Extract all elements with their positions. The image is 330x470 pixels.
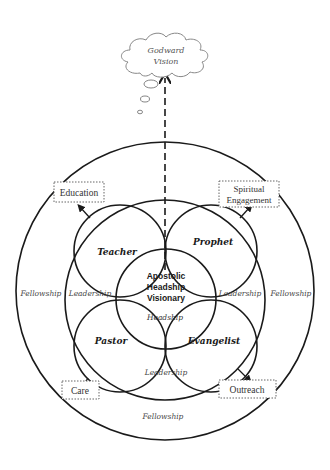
thought-bubble-medium bbox=[141, 96, 150, 102]
spiritual-arrow bbox=[240, 207, 250, 218]
fellowship-label-left: Fellowship bbox=[20, 289, 62, 298]
evangelist-label: Evangelist bbox=[187, 336, 241, 346]
education-arrow bbox=[80, 207, 90, 218]
thought-bubble-small bbox=[138, 110, 143, 114]
pastor-label: Pastor bbox=[94, 336, 129, 346]
prophet-label: Prophet bbox=[192, 237, 234, 247]
headship-label: Headship bbox=[146, 313, 183, 322]
spiritual-label-line1: Spiritual bbox=[234, 184, 265, 194]
teacher-label: Teacher bbox=[97, 247, 138, 257]
outreach-label: Outreach bbox=[230, 385, 265, 395]
leadership-label-bottom: Leadership bbox=[144, 368, 188, 377]
center-label-line1: Apostolic bbox=[147, 271, 186, 281]
care-label: Care bbox=[71, 386, 89, 396]
cloud-shape bbox=[121, 33, 207, 77]
leadership-label-right: Leadership bbox=[218, 289, 262, 298]
center-label-line2: Headship bbox=[147, 282, 185, 292]
education-label: Education bbox=[60, 188, 99, 198]
cloud-label-line2: Vision bbox=[154, 57, 179, 66]
center-label-line3: Visionary bbox=[147, 293, 185, 303]
cloud-label-line1: Godward bbox=[148, 46, 185, 55]
ministry-diagram: Godward Vision Education Spiritual Engag… bbox=[0, 0, 330, 470]
fellowship-label-bottom: Fellowship bbox=[142, 412, 184, 421]
thought-bubble-large bbox=[144, 80, 158, 88]
fellowship-label-right: Fellowship bbox=[270, 289, 312, 298]
spiritual-label-line2: Engagement bbox=[227, 195, 272, 205]
leadership-label-left: Leadership bbox=[68, 289, 112, 298]
